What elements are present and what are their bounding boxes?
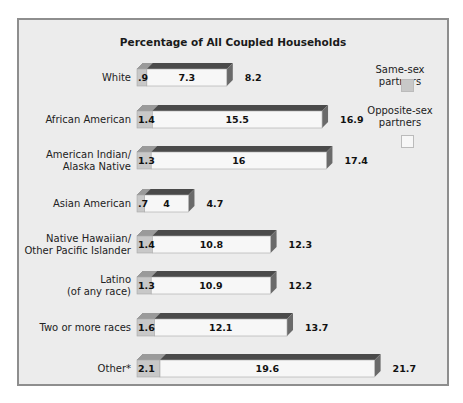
category-label: Two or more races bbox=[39, 322, 131, 334]
value-label-opposite-sex: 16 bbox=[151, 155, 326, 167]
value-label-opposite-sex: 10.9 bbox=[151, 280, 270, 292]
value-label-opposite-sex: 19.6 bbox=[160, 363, 375, 375]
category-label: Other* bbox=[98, 363, 131, 375]
category-label: Latino(of any race) bbox=[67, 274, 131, 298]
total-label: 12.3 bbox=[289, 239, 312, 251]
category-label-line: Alaska Native bbox=[63, 161, 131, 172]
value-label-same-sex: 2.1 bbox=[138, 363, 155, 375]
total-label: 12.2 bbox=[289, 280, 312, 292]
legend-opposite-sex-line1: Opposite-sex bbox=[367, 105, 432, 116]
value-label-opposite-sex: 4 bbox=[145, 198, 189, 210]
bar-top-face bbox=[137, 313, 293, 319]
legend-opposite-sex-line2: partners bbox=[379, 117, 421, 128]
bar-top-face bbox=[137, 105, 328, 111]
total-label: 21.7 bbox=[393, 363, 416, 375]
category-label-line: (of any race) bbox=[67, 286, 131, 297]
category-label-line: Asian American bbox=[53, 198, 131, 209]
legend-opposite-sex-swatch bbox=[401, 135, 414, 148]
category-label: African American bbox=[45, 114, 131, 126]
legend-same-sex-swatch bbox=[401, 79, 414, 92]
category-label: White bbox=[102, 72, 131, 84]
value-label-opposite-sex: 15.5 bbox=[152, 114, 322, 126]
category-label-line: Native Hawaiian/ bbox=[46, 233, 131, 244]
category-label: Native Hawaiian/Other Pacific Islander bbox=[24, 233, 131, 257]
value-label-opposite-sex: 12.1 bbox=[155, 322, 287, 334]
category-label-line: African American bbox=[45, 114, 131, 125]
total-label: 13.7 bbox=[305, 322, 328, 334]
category-label-line: Two or more races bbox=[39, 322, 131, 333]
category-label: Asian American bbox=[53, 198, 131, 210]
value-label-same-sex: 1.6 bbox=[138, 322, 155, 334]
bar-top-face bbox=[137, 354, 381, 360]
total-label: 17.4 bbox=[344, 155, 367, 167]
legend-opposite-sex-label: Opposite-sex partners bbox=[355, 105, 445, 129]
category-label-line: American Indian/ bbox=[46, 149, 131, 160]
category-label-line: Other Pacific Islander bbox=[24, 245, 131, 256]
bar-top-face bbox=[137, 146, 332, 152]
legend-same-sex-label: Same-sex partners bbox=[355, 64, 445, 88]
total-label: 4.7 bbox=[206, 198, 223, 210]
bar-top-face bbox=[137, 271, 277, 277]
category-label-line: White bbox=[102, 72, 131, 83]
category-label: American Indian/Alaska Native bbox=[46, 149, 131, 173]
total-label: 8.2 bbox=[245, 72, 262, 84]
value-label-opposite-sex: 10.8 bbox=[152, 239, 270, 251]
category-label-line: Other* bbox=[98, 363, 131, 374]
value-label-opposite-sex: 7.3 bbox=[147, 72, 227, 84]
category-label-line: Latino bbox=[100, 274, 131, 285]
bar-top-face bbox=[137, 230, 277, 236]
